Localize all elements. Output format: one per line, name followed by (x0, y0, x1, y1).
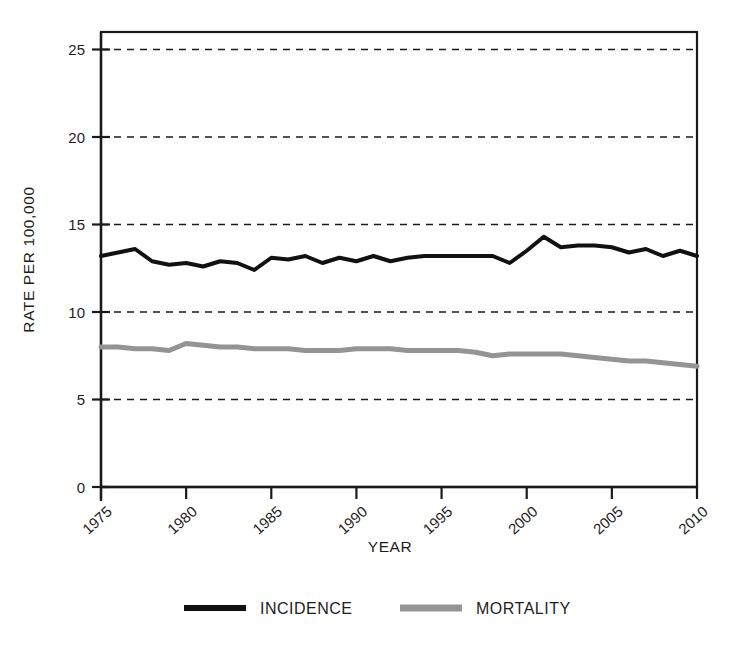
y-axis-title: RATE PER 100,000 (20, 186, 37, 332)
legend-label-mortality: MORTALITY (476, 600, 571, 617)
y-tick-label-15: 15 (68, 216, 85, 233)
y-tick-label-20: 20 (68, 129, 85, 146)
x-axis-title: YEAR (368, 538, 413, 555)
chart-figure: 0510152025197519801985199019952000200520… (0, 0, 736, 650)
y-tick-label-5: 5 (77, 391, 85, 408)
legend-label-incidence: INCIDENCE (260, 600, 353, 617)
y-tick-label-25: 25 (68, 41, 85, 58)
line-chart-svg: 0510152025197519801985199019952000200520… (0, 0, 736, 650)
y-tick-label-10: 10 (68, 304, 85, 321)
y-tick-label-0: 0 (77, 479, 85, 496)
